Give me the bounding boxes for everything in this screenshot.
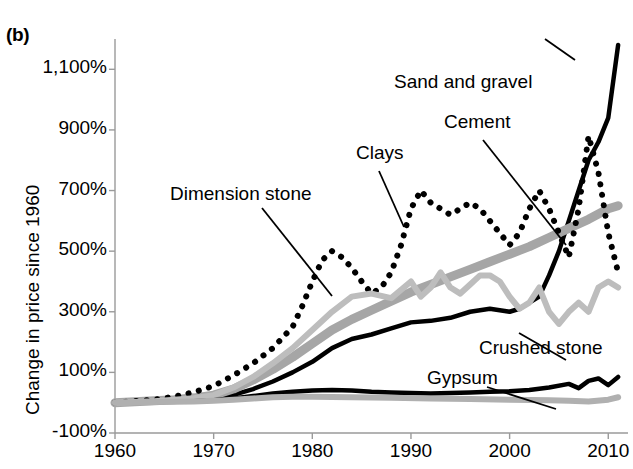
leader-line-1 — [379, 171, 404, 227]
y-tick-100: 100% — [58, 359, 107, 381]
y-tick-1100: 1,100% — [43, 56, 107, 78]
series-sand-and-gravel — [115, 206, 618, 403]
annotation-dimension-stone: Dimension stone — [170, 183, 312, 205]
x-tick-2000: 2000 — [480, 440, 540, 462]
annotation-gypsum: Gypsum — [427, 367, 498, 389]
leader-line-0 — [262, 208, 332, 296]
annotation-sand-and-gravel: Sand and gravel — [394, 71, 532, 93]
y-tick-900: 900% — [58, 117, 107, 139]
y-tick--100: -100% — [52, 420, 107, 442]
y-tick-500: 500% — [58, 238, 107, 260]
y-tick-700: 700% — [58, 178, 107, 200]
x-tick-1990: 1990 — [381, 440, 441, 462]
annotation-clays: Clays — [356, 142, 404, 164]
annotation-crushed-stone: Crushed stone — [479, 337, 603, 359]
annotation-cement: Cement — [444, 111, 511, 133]
x-tick-2010: 2010 — [578, 440, 633, 462]
x-tick-1960: 1960 — [85, 440, 145, 462]
leader-line-2 — [545, 39, 575, 60]
x-tick-1970: 1970 — [184, 440, 244, 462]
y-tick-300: 300% — [58, 299, 107, 321]
series-clays — [115, 136, 618, 403]
x-tick-1980: 1980 — [282, 440, 342, 462]
price-change-chart: (b) Change in price since 1960 -100%100%… — [0, 0, 633, 469]
